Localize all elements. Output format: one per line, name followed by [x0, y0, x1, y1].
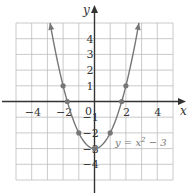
data-point: [61, 83, 66, 88]
x-axis-label: x: [180, 104, 187, 118]
y-tick-label: 4: [87, 33, 94, 46]
data-point: [65, 99, 70, 104]
data-point: [123, 83, 128, 88]
data-point: [108, 130, 113, 135]
curve-arrow-icon: [48, 23, 54, 30]
y-tick-label: −2: [83, 127, 99, 140]
origin-label: 0: [85, 105, 92, 118]
parabola-chart: −4−2244321−1−2−3−4 x y 0 y = x2 − 3: [0, 0, 190, 193]
data-point: [119, 99, 124, 104]
y-axis-label: y: [82, 3, 90, 17]
equation-label: y = x2 − 3: [114, 136, 167, 148]
y-tick-label: 3: [87, 48, 94, 61]
x-tick-label: −4: [25, 106, 41, 119]
x-tick-label: 4: [154, 106, 161, 119]
y-tick-label: 2: [87, 64, 94, 77]
data-point: [92, 146, 97, 151]
y-tick-label: −4: [83, 158, 99, 171]
x-tick-label: 2: [123, 106, 130, 119]
data-point: [76, 130, 81, 135]
y-axis-arrow-icon: [91, 5, 98, 13]
curve-arrow-icon: [135, 23, 141, 30]
y-tick-label: 1: [87, 80, 94, 93]
